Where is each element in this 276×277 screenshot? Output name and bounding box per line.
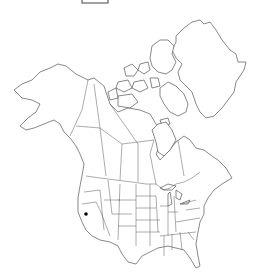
arctic-island-2 (138, 62, 150, 74)
banks-island-outline (108, 88, 118, 100)
victoria-island-outline (118, 94, 138, 108)
arctic-island-4 (132, 80, 148, 92)
arctic-island-5 (150, 78, 160, 88)
legend-box (82, 0, 108, 3)
baffin-island-outline (160, 82, 188, 116)
ellesmere-island-outline (150, 40, 176, 74)
arctic-island-3 (116, 80, 132, 92)
arctic-island-1 (124, 64, 138, 76)
distribution-map (0, 0, 276, 277)
occurrence-marker-california (84, 212, 88, 216)
